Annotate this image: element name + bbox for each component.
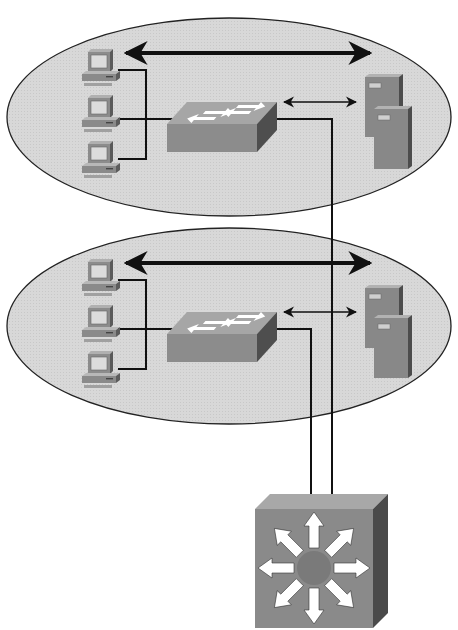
server-icon xyxy=(374,106,412,169)
workgroup-switch-icon xyxy=(167,312,277,362)
network-diagram xyxy=(0,0,458,630)
workgroup-switch-icon xyxy=(167,102,277,152)
server-icon xyxy=(374,315,412,378)
multilayer-switch-icon xyxy=(255,494,388,628)
